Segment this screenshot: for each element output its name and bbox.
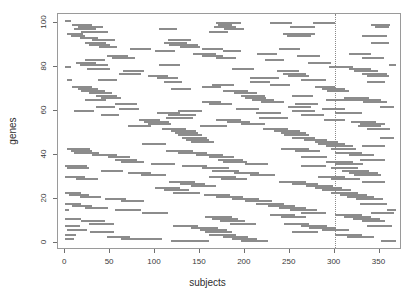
gene-segment	[130, 48, 152, 50]
gene-segment	[367, 81, 385, 83]
gene-segment	[241, 123, 264, 125]
gene-segment	[159, 28, 178, 30]
gene-segment	[380, 106, 394, 108]
gene-segment	[65, 20, 70, 22]
y-axis-tick-label: 100	[39, 15, 48, 28]
gene-segment	[301, 165, 326, 167]
gene-segment	[335, 163, 364, 165]
x-axis-tick-label: 150	[192, 257, 205, 266]
gene-segment	[178, 110, 201, 112]
gene-segment	[115, 103, 137, 105]
gene-segment	[159, 64, 181, 66]
x-axis-tick	[334, 249, 335, 253]
gene-segment	[281, 216, 306, 218]
x-axis-tick-label: 0	[62, 257, 66, 266]
gene-segment	[265, 59, 285, 61]
x-axis-tick	[289, 249, 290, 253]
gene-segment	[85, 207, 108, 209]
gene-segment	[236, 108, 259, 110]
gene-segment	[327, 90, 349, 92]
gene-segment	[191, 141, 214, 143]
x-axis-title: subjects	[0, 277, 415, 288]
gene-segment	[313, 22, 335, 24]
gene-segment	[191, 185, 216, 187]
y-axis-tick-label: 60	[39, 106, 48, 115]
gene-segment	[367, 225, 392, 227]
gene-segment	[164, 81, 182, 83]
gene-segment	[128, 125, 151, 127]
y-axis-tick-label: 80	[39, 61, 48, 70]
x-axis-tick-label: 300	[327, 257, 340, 266]
gene-segment	[101, 114, 119, 116]
y-axis-tick	[53, 110, 57, 111]
gene-segment	[250, 81, 270, 83]
gene-segment	[157, 77, 179, 79]
gene-segment	[142, 143, 165, 145]
gene-segment	[221, 178, 246, 180]
gene-segment	[380, 137, 394, 139]
x-axis-tick	[379, 249, 380, 253]
gene-segment	[99, 46, 117, 48]
gene-segment	[371, 212, 394, 214]
gene-segment	[257, 53, 277, 55]
gene-segment	[241, 240, 268, 242]
y-axis-tick	[53, 242, 57, 243]
gene-segment	[121, 200, 144, 202]
gene-segment	[171, 88, 191, 90]
gene-segment	[173, 192, 200, 194]
gene-segment	[250, 174, 275, 176]
x-axis-tick	[199, 249, 200, 253]
gene-segment	[65, 225, 79, 227]
gene-segment	[288, 106, 311, 108]
gene-segment	[65, 238, 74, 240]
gene-segment	[89, 223, 114, 225]
gene-segment	[360, 203, 387, 205]
gene-segment	[112, 57, 135, 59]
gene-segment	[250, 77, 279, 79]
gene-segment	[65, 209, 69, 211]
x-axis-tick	[154, 249, 155, 253]
gene-segment	[200, 125, 227, 127]
plot-area[interactable]	[57, 13, 401, 249]
gene-segment	[209, 31, 228, 33]
gene-segment	[121, 161, 144, 163]
gene-segment	[202, 86, 222, 88]
gene-segment	[142, 212, 167, 214]
gene-segment	[292, 95, 314, 97]
gene-segment	[349, 154, 374, 156]
gene-segment	[367, 128, 390, 130]
y-axis-tick-label: 40	[39, 150, 48, 159]
y-axis-tick	[53, 66, 57, 67]
gene-segment	[270, 22, 292, 24]
gene-segment	[216, 57, 236, 59]
gene-segment	[259, 117, 288, 119]
gene-segment	[389, 64, 396, 66]
gene-segment	[256, 112, 281, 114]
gene-segment	[360, 159, 385, 161]
gene-segment	[67, 167, 89, 169]
gene-segment	[155, 50, 175, 52]
gene-segment	[362, 145, 385, 147]
gene-segment	[80, 196, 102, 198]
gene-segment	[74, 110, 94, 112]
gene-segment	[96, 106, 116, 108]
gene-segment	[363, 101, 386, 103]
gene-segment	[245, 163, 268, 165]
gene-segment	[101, 170, 123, 172]
y-axis-tick-label: 0	[39, 240, 48, 244]
gene-segment	[292, 231, 319, 233]
gene-segment	[223, 161, 246, 163]
figure-container: 050100150200250300350 020406080100 subje…	[0, 0, 415, 301]
segment-series-layer	[58, 14, 400, 248]
gene-segment	[230, 223, 255, 225]
x-axis-tick-label: 50	[105, 257, 114, 266]
gene-segment	[65, 66, 70, 68]
x-axis-tick	[109, 249, 110, 253]
gene-segment	[367, 75, 389, 77]
gene-segment	[301, 156, 328, 158]
gene-segment	[151, 163, 174, 165]
gene-segment	[80, 64, 109, 66]
x-axis-tick-label: 250	[282, 257, 295, 266]
gene-segment	[119, 108, 139, 110]
gene-segment	[297, 55, 320, 57]
